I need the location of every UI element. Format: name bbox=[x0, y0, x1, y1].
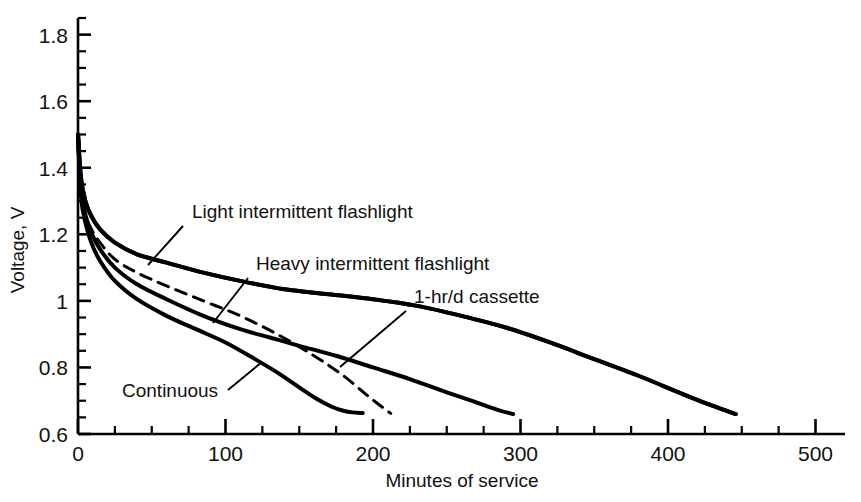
x-axis-title: Minutes of service bbox=[385, 470, 538, 491]
x-tick-label: 0 bbox=[72, 442, 84, 465]
y-tick-label: 1.4 bbox=[39, 157, 69, 180]
annotation-leader-line bbox=[213, 278, 248, 323]
y-tick-label: 0.6 bbox=[39, 423, 68, 446]
chart-series-group bbox=[78, 134, 736, 414]
series-annotation-label: Light intermittent flashlight bbox=[192, 201, 413, 222]
series-line bbox=[78, 134, 736, 414]
y-axis-tick-labels: 0.60.811.21.41.61.8 bbox=[39, 24, 69, 446]
y-tick-label: 1.8 bbox=[39, 24, 68, 47]
series-annotation-label: Heavy intermittent flashlight bbox=[256, 253, 490, 274]
chart-plot-area: 0.60.811.21.41.61.8 0100200300400500 Vol… bbox=[0, 0, 861, 502]
x-tick-label: 200 bbox=[355, 442, 390, 465]
x-axis-tick-labels: 0100200300400500 bbox=[72, 442, 833, 465]
y-tick-label: 1.6 bbox=[39, 90, 68, 113]
chart-figure: 0.60.811.21.41.61.8 0100200300400500 Vol… bbox=[0, 0, 861, 502]
x-tick-label: 500 bbox=[798, 442, 833, 465]
series-annotation-label: Continuous bbox=[122, 380, 218, 401]
series-annotation-label: 1-hr/d cassette bbox=[414, 286, 540, 307]
annotation-leader-line bbox=[340, 311, 406, 367]
x-tick-label: 400 bbox=[650, 442, 685, 465]
y-tick-label: 0.8 bbox=[39, 356, 68, 379]
y-tick-label: 1 bbox=[56, 290, 68, 313]
x-tick-label: 100 bbox=[208, 442, 243, 465]
y-axis-title: Voltage, V bbox=[7, 206, 28, 293]
y-tick-label: 1.2 bbox=[39, 223, 68, 246]
annotation-labels: Light intermittent flashlightHeavy inter… bbox=[122, 201, 540, 401]
annotation-leader-line bbox=[228, 362, 262, 390]
series-line bbox=[78, 134, 736, 414]
annotation-leader-line bbox=[148, 226, 183, 265]
x-tick-label: 300 bbox=[503, 442, 538, 465]
clipped-caption bbox=[0, 490, 861, 502]
